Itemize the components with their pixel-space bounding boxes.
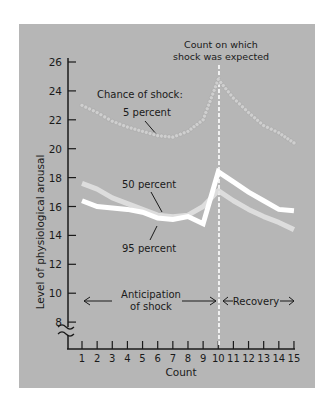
x-tick-label: 13 (257, 353, 270, 364)
y-tick-label: 26 (49, 56, 63, 68)
x-tick-label: 15 (288, 353, 301, 364)
x-ticks: 123456789101112131415 (79, 341, 301, 364)
y-tick-label: 22 (49, 114, 62, 126)
y-tick-label: 18 (49, 172, 62, 184)
x-tick-label: 9 (200, 353, 206, 364)
x-tick-label: 14 (272, 353, 285, 364)
arrow-right-icon (182, 297, 216, 305)
shock-line-title-1: Count on which (184, 39, 258, 50)
x-tick-label: 2 (94, 353, 100, 364)
recovery-arrow-left-icon (223, 297, 233, 305)
y-ticks: 8101214161820222426 (49, 56, 76, 328)
x-tick-label: 7 (170, 353, 176, 364)
x-tick-label: 1 (79, 353, 85, 364)
x-tick-label: 6 (155, 353, 161, 364)
y-tick-label: 12 (49, 258, 62, 270)
shock-line-title-2: shock was expected (173, 51, 269, 62)
y-tick-label: 8 (55, 316, 62, 328)
y-tick-label: 10 (49, 287, 62, 299)
label-5-percent: 5 percent (123, 107, 171, 118)
x-axis-label: Count (165, 366, 196, 378)
y-axis-label: Level of physiological arousal (34, 155, 46, 310)
label-95-percent: 95 percent (122, 243, 176, 254)
x-tick-label: 4 (124, 353, 130, 364)
y-tick-label: 24 (49, 85, 63, 97)
y-tick-label: 20 (49, 143, 62, 155)
x-tick-label: 3 (109, 353, 115, 364)
series-group (80, 77, 296, 229)
x-tick-label: 5 (139, 353, 145, 364)
anticipation-label-1: Anticipation (121, 289, 181, 300)
y-tick-label: 16 (49, 201, 63, 213)
pointer-95-percent (150, 226, 157, 240)
x-tick-label: 8 (185, 353, 191, 364)
x-tick-label: 10 (212, 353, 225, 364)
recovery-label: Recovery (233, 296, 279, 307)
recovery-arrow-right-icon (280, 297, 294, 305)
series-5-percent (80, 77, 296, 145)
x-tick-label: 12 (242, 353, 255, 364)
arrow-left-icon (84, 297, 112, 305)
x-tick-label: 11 (227, 353, 240, 364)
pointer-50-percent (151, 192, 162, 212)
anticipation-label-2: of shock (130, 301, 172, 312)
label-50-percent: 50 percent (122, 179, 176, 190)
line-chart: 8101214161820222426 12345678910111213141… (0, 0, 332, 409)
legend-header: Chance of shock: (97, 89, 183, 100)
y-tick-label: 14 (49, 229, 63, 241)
